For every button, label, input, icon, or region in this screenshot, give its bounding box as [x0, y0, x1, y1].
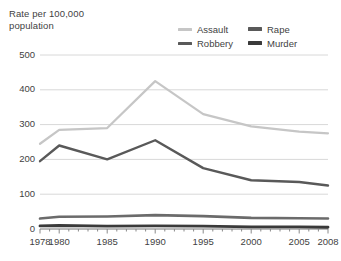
legend-swatch-robbery — [178, 42, 192, 45]
legend-swatch-assault — [178, 28, 192, 31]
series-line-rape[interactable] — [40, 215, 328, 218]
legend-label-rape: Rape — [267, 24, 290, 35]
legend-label-robbery: Robbery — [197, 38, 233, 49]
legend-item-rape[interactable]: Rape — [248, 22, 312, 36]
legend-item-murder[interactable]: Murder — [248, 36, 312, 50]
legend-label-assault: Assault — [197, 24, 228, 35]
legend-swatch-murder — [248, 41, 262, 45]
legend-item-assault[interactable]: Assault — [178, 22, 242, 36]
y-axis-title: Rate per 100,000 population — [9, 8, 84, 31]
legend-label-murder: Murder — [267, 38, 297, 49]
series-line-assault[interactable] — [40, 81, 328, 144]
legend-item-robbery[interactable]: Robbery — [178, 36, 242, 50]
series-line-robbery[interactable] — [40, 140, 328, 185]
legend-swatch-rape — [248, 27, 262, 31]
crime-rate-line-chart: Rate per 100,000 population Assault Rape… — [0, 0, 341, 261]
chart-legend: Assault Rape Robbery Murder — [178, 22, 338, 50]
series-line-murder[interactable] — [40, 226, 328, 228]
